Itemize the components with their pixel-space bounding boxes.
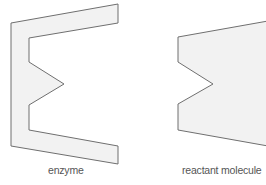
reactant-molecule-shape [178,21,266,146]
reactant-molecule-label: reactant molecule [182,164,261,176]
enzyme-label: enzyme [48,164,84,176]
enzyme-shape [11,4,118,164]
diagram-canvas [0,0,266,185]
